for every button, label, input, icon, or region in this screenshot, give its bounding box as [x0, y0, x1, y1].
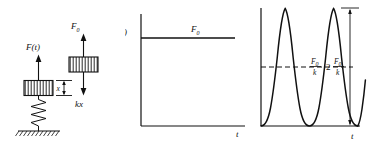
spring-force-arrow-down [81, 72, 87, 96]
applied-force-arrow [36, 55, 42, 81]
panel-force-plot: F(t) t F0 [125, 0, 255, 148]
label-displacement: x [56, 84, 61, 93]
amplitude-denominator: k [336, 68, 340, 77]
label-spring-force: kx [75, 99, 83, 109]
force-level-label: F0 [190, 24, 200, 36]
hatched-ground [16, 131, 61, 136]
mass-block-upper [69, 57, 98, 72]
mean-denominator: k [313, 68, 317, 77]
panel-free-body-diagram: F(t) x F0 [0, 0, 125, 148]
fbd-svg: F(t) x F0 [0, 0, 125, 148]
reaction-force-arrow-up [81, 34, 87, 58]
label-applied-force: F(t) [25, 42, 40, 52]
amplitude-numerator: F0 [333, 57, 342, 67]
mean-numerator: F0 [310, 57, 319, 67]
amplitude-coefficient: 2 [326, 62, 331, 72]
response-plot-svg: F0 k 2 F0 k x(t) t [255, 0, 389, 148]
mass-block-lower [24, 81, 53, 96]
force-plot-ylabel: F(t) [125, 27, 127, 37]
figure-root: F(t) x F0 [0, 0, 389, 148]
response-curve-tail [358, 80, 366, 126]
label-reaction-force: F0 [70, 21, 80, 33]
response-plot-xlabel: t [351, 131, 354, 141]
coil-spring [31, 96, 46, 132]
force-plot-xlabel: t [236, 129, 239, 139]
force-plot-svg: F(t) t F0 [125, 0, 255, 148]
panel-response-plot: F0 k 2 F0 k x(t) t [255, 0, 389, 148]
